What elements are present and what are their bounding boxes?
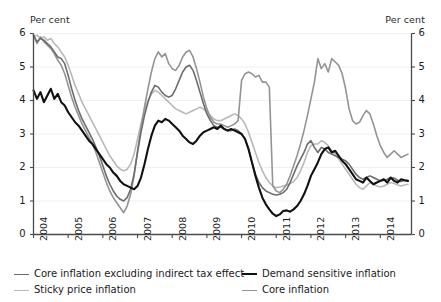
series-line <box>34 35 409 213</box>
y-axis-tick-label: 2 <box>419 161 435 172</box>
y-axis-tick-label: 2 <box>10 161 26 172</box>
x-axis-tick-label: 2007 <box>142 216 153 240</box>
x-axis-tick-label: 2008 <box>177 216 188 240</box>
legend-label: Demand sensitive inflation <box>262 268 396 280</box>
y-axis-tick-label: 0 <box>10 228 26 239</box>
y-axis-tick-label: 5 <box>419 61 435 72</box>
chart-legend: Core inflation excluding indirect tax ef… <box>14 268 441 302</box>
x-axis-tick-label: 2012 <box>315 216 326 240</box>
legend-label: Core inflation <box>262 284 329 296</box>
legend-label: Core inflation excluding indirect tax ef… <box>34 268 244 280</box>
legend-label: Sticky price inflation <box>34 284 136 296</box>
x-axis-tick-label: 2014 <box>385 216 396 240</box>
x-axis-tick-label: 2013 <box>350 216 361 240</box>
plot-area <box>0 0 441 302</box>
inflation-line-chart: Per cent Per cent 0123456 0123456 200420… <box>0 0 441 302</box>
x-axis-tick-label: 2006 <box>107 216 118 240</box>
legend-line-swatch <box>242 290 257 291</box>
legend-line-swatch <box>14 290 29 291</box>
series-line <box>34 89 409 216</box>
legend-line-swatch <box>14 274 29 275</box>
y-axis-tick-label: 1 <box>10 195 26 206</box>
series-layer <box>34 35 409 216</box>
legend-item[interactable]: Sticky price inflation <box>14 284 136 296</box>
x-axis-tick-label: 2005 <box>73 216 84 240</box>
y-axis-tick-label: 5 <box>10 61 26 72</box>
y-axis-unit-right: Per cent <box>385 14 425 25</box>
legend-item[interactable]: Demand sensitive inflation <box>242 268 396 280</box>
y-axis-tick-label: 6 <box>10 27 26 38</box>
series-line <box>34 35 409 189</box>
y-axis-tick-label: 0 <box>419 228 435 239</box>
y-axis-unit-left: Per cent <box>30 14 70 25</box>
x-axis-tick-label: 2010 <box>246 216 257 240</box>
y-axis-tick-label: 4 <box>10 94 26 105</box>
x-axis-tick-label: 2011 <box>281 216 292 240</box>
legend-line-swatch <box>242 273 257 275</box>
y-axis-tick-label: 3 <box>10 128 26 139</box>
x-axis-tick-label: 2004 <box>38 216 49 240</box>
y-axis-tick-label: 4 <box>419 94 435 105</box>
legend-item[interactable]: Core inflation <box>242 284 329 296</box>
y-axis-tick-label: 6 <box>419 27 435 38</box>
x-axis-tick-label: 2009 <box>211 216 222 240</box>
y-axis-tick-label: 3 <box>419 128 435 139</box>
legend-item[interactable]: Core inflation excluding indirect tax ef… <box>14 268 244 280</box>
y-axis-tick-label: 1 <box>419 195 435 206</box>
